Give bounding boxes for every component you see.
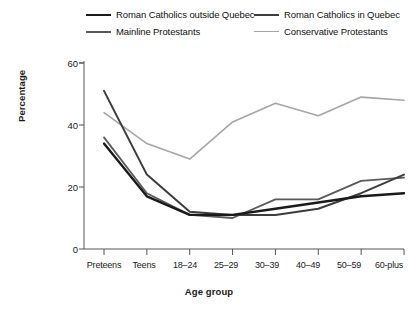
x-tick-label: 40–49 <box>296 260 320 270</box>
x-tick-label: 30–39 <box>255 260 279 270</box>
x-tick-label: 18–24 <box>173 260 197 270</box>
x-tick-label: 60-plus <box>375 260 403 270</box>
x-tick-label: 50–59 <box>337 260 361 270</box>
chart-figure: Roman Catholics outside Quebec Roman Cat… <box>0 0 418 309</box>
x-axis-tick-labels: Preteens Teens 18–24 25–29 30–39 40–49 5… <box>0 0 418 309</box>
x-tick-label: 25–29 <box>214 260 238 270</box>
x-tick-label: Teens <box>132 260 155 270</box>
x-tick-label: Preteens <box>87 260 121 270</box>
x-axis-title: Age group <box>0 286 418 297</box>
